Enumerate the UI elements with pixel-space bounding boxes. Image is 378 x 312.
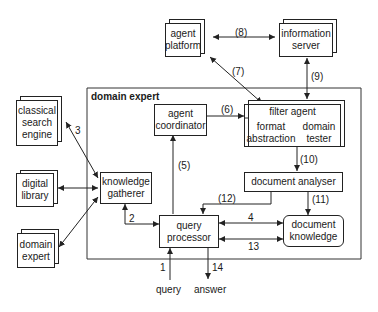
- classical-search-engine-node[interactable]: classical search engine: [16, 100, 58, 146]
- node-label: document analyser: [251, 176, 336, 188]
- node-label: classical: [18, 105, 56, 117]
- node-label: coordinator: [155, 120, 205, 132]
- node-label: query: [176, 220, 201, 232]
- information-server-node[interactable]: information server: [279, 23, 333, 57]
- document-knowledge-node[interactable]: document knowledge: [283, 215, 344, 247]
- edge-label-5: (5): [178, 160, 190, 172]
- node-label: knowledge: [102, 176, 150, 188]
- edge-label-11: (11): [312, 194, 329, 206]
- agent-coordinator-node[interactable]: agent coordinator: [154, 104, 207, 136]
- answer-output-label: answer: [194, 284, 226, 296]
- edge-label-8: (8): [235, 27, 247, 39]
- edge-label-2: 2: [129, 213, 135, 225]
- domain-expert-title: domain expert: [91, 91, 159, 102]
- node-label: knowledge: [290, 231, 338, 243]
- query-input-label: query: [156, 284, 181, 296]
- edge-label-12: (12): [218, 193, 236, 205]
- query-processor-node[interactable]: query processor: [159, 215, 219, 248]
- node-label: engine: [22, 129, 52, 141]
- node-label: platform: [165, 40, 201, 52]
- filter-agent-label: filter agent: [244, 106, 341, 118]
- node-label: gatherer: [107, 188, 144, 200]
- node-label: library: [21, 190, 48, 202]
- edge-label-3: 3: [75, 125, 81, 137]
- edge-label-10: (10): [300, 154, 318, 166]
- node-label: agent: [170, 28, 195, 40]
- format-abstraction-label: format abstraction: [246, 121, 296, 145]
- node-label: server: [292, 40, 320, 52]
- document-analyser-node[interactable]: document analyser: [244, 172, 343, 192]
- node-label: search: [22, 117, 52, 129]
- edge-label-1: 1: [160, 262, 166, 274]
- node-label: document: [292, 219, 336, 231]
- edge-label-13: 13: [248, 241, 259, 253]
- edge-label-7: (7): [232, 66, 244, 78]
- node-label: processor: [167, 232, 211, 244]
- node-label: expert: [22, 251, 50, 263]
- agent-platform-node[interactable]: agent platform: [165, 23, 201, 57]
- edge-label-14: 14: [212, 262, 223, 274]
- edge-label-6: (6): [221, 104, 233, 116]
- node-label: digital: [22, 178, 48, 190]
- edge-label-4: 4: [248, 212, 254, 224]
- node-label: agent: [168, 108, 193, 120]
- domain-expert-external-node[interactable]: domain expert: [17, 233, 55, 268]
- node-label: domain: [20, 239, 53, 251]
- domain-tester-label: domain tester: [298, 121, 340, 145]
- digital-library-node[interactable]: digital library: [16, 173, 54, 207]
- knowledge-gatherer-node[interactable]: knowledge gatherer: [100, 172, 152, 204]
- edge-label-9: (9): [311, 71, 323, 83]
- node-label: information: [281, 28, 330, 40]
